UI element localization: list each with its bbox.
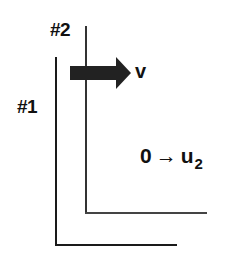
right-arrow-icon: → — [156, 145, 177, 166]
diagram: #2 #1 v 0→u2 — [0, 0, 238, 259]
transition-from: 0 — [140, 144, 152, 167]
plate-2-horizontal-line — [85, 212, 207, 214]
plate-1-vertical-line — [55, 57, 57, 246]
transition-to-subscript: 2 — [195, 155, 203, 172]
velocity-transition-label: 0→u2 — [140, 145, 203, 166]
transition-to: u — [181, 144, 194, 167]
plate-2-vertical-line — [85, 26, 87, 214]
velocity-label: v — [135, 61, 146, 81]
velocity-arrow-icon — [69, 56, 133, 90]
plate-1-horizontal-line — [55, 244, 177, 246]
plate-2-label: #2 — [50, 20, 70, 39]
plate-1-label: #1 — [17, 97, 37, 116]
